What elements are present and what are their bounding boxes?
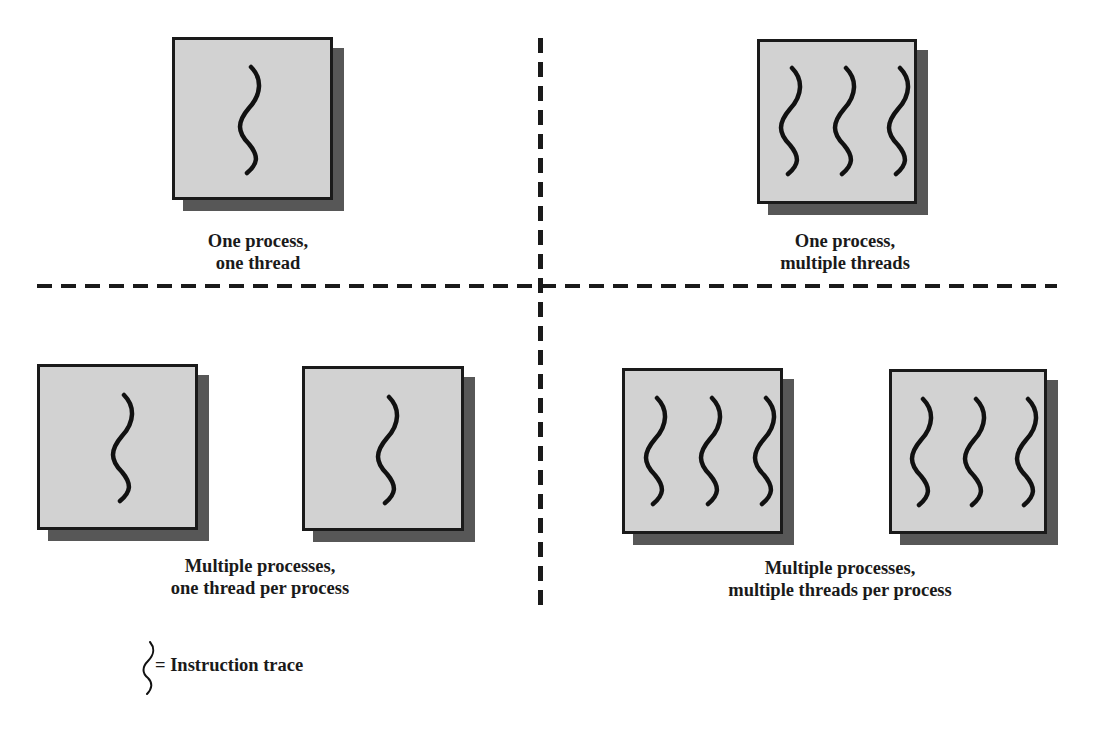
thread-icon bbox=[640, 395, 670, 507]
instruction-trace-icon bbox=[140, 640, 156, 696]
thread-icon bbox=[959, 396, 989, 508]
thread-icon bbox=[234, 64, 264, 176]
thread-icon bbox=[829, 65, 859, 177]
caption-line: Multiple processes, bbox=[690, 557, 990, 579]
thread-icon bbox=[775, 65, 805, 177]
thread-icon bbox=[372, 394, 402, 506]
caption-line: multiple threads per process bbox=[690, 579, 990, 601]
process-box bbox=[302, 366, 464, 531]
process-box bbox=[37, 364, 198, 530]
caption-line: multiple threads bbox=[750, 252, 940, 274]
process-box bbox=[757, 39, 917, 204]
process-box bbox=[622, 368, 783, 534]
legend-label: = Instruction trace bbox=[155, 655, 303, 676]
thread-icon bbox=[749, 395, 779, 507]
thread-icon bbox=[1011, 396, 1041, 508]
thread-icon bbox=[906, 396, 936, 508]
caption-line: Multiple processes, bbox=[140, 555, 380, 577]
caption-multiple-processes-multiple-threads: Multiple processes, multiple threads per… bbox=[690, 557, 990, 601]
caption-one-process-one-thread: One process, one thread bbox=[172, 230, 344, 274]
thread-icon bbox=[883, 65, 913, 177]
thread-icon bbox=[695, 395, 725, 507]
vertical-divider bbox=[538, 38, 543, 605]
thread-icon bbox=[107, 392, 137, 504]
caption-line: one thread bbox=[172, 252, 344, 274]
caption-one-process-multiple-threads: One process, multiple threads bbox=[750, 230, 940, 274]
caption-line: One process, bbox=[750, 230, 940, 252]
process-box bbox=[889, 369, 1047, 534]
caption-multiple-processes-one-thread: Multiple processes, one thread per proce… bbox=[140, 555, 380, 599]
caption-line: one thread per process bbox=[140, 577, 380, 599]
process-box bbox=[172, 37, 333, 200]
horizontal-divider bbox=[37, 284, 1057, 288]
caption-line: One process, bbox=[172, 230, 344, 252]
